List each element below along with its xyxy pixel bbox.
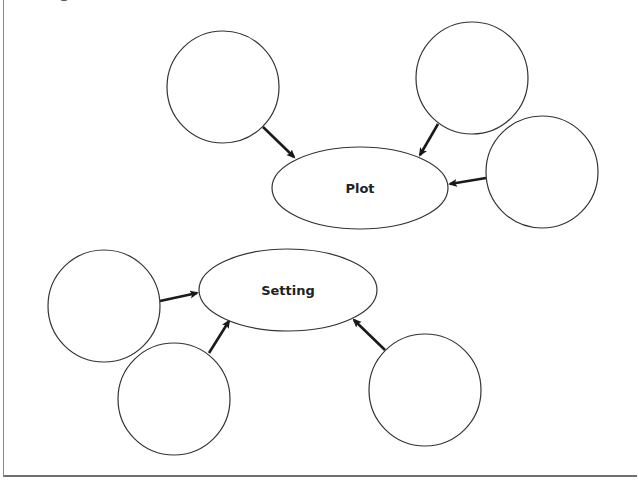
plot-detail-2-circle[interactable]: [416, 22, 528, 134]
arrow-setting-detail-3-to-setting: [354, 320, 385, 350]
story-organizer-diagram: PlotSetting: [0, 0, 638, 487]
arrow-setting-detail-2-to-setting: [209, 321, 229, 353]
setting-detail-1-circle[interactable]: [48, 250, 160, 362]
arrow-plot-detail-3-to-plot: [450, 178, 486, 184]
setting-detail-2-circle[interactable]: [118, 343, 230, 455]
setting-label: Setting: [261, 283, 315, 298]
setting-hub[interactable]: Setting: [199, 249, 377, 331]
setting-detail-3-circle[interactable]: [369, 334, 481, 446]
plot-label: Plot: [345, 181, 374, 196]
nodes-layer: PlotSetting: [48, 22, 598, 455]
plot-detail-1-circle[interactable]: [167, 31, 279, 143]
arrow-plot-detail-2-to-plot: [420, 124, 438, 155]
plot-hub[interactable]: Plot: [272, 147, 448, 229]
arrow-setting-detail-1-to-setting: [160, 293, 197, 301]
arrow-plot-detail-1-to-plot: [263, 127, 294, 157]
plot-detail-3-circle[interactable]: [486, 116, 598, 228]
